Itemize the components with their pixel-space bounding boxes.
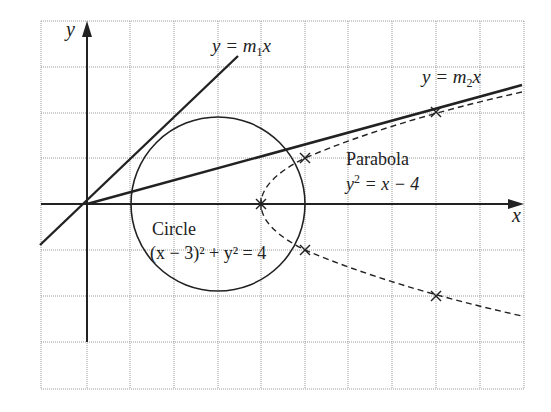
y-axis-arrow-icon	[82, 21, 92, 37]
diagram-canvas: y x y = m1x y = m2x Parabola y2 = x − 4 …	[0, 0, 551, 412]
line-m1-label: y = m1x	[210, 35, 271, 59]
line-m2-label: y = m2x	[420, 66, 481, 90]
parabola-name-label: Parabola	[346, 149, 409, 169]
y-axis-label: y	[64, 18, 75, 41]
circle-name-label: Circle	[152, 219, 196, 239]
circle-equation-label: (x − 3)² + y² = 4	[150, 243, 266, 264]
line-m1	[40, 56, 238, 245]
x-axis-label: x	[511, 204, 521, 226]
parabola-equation-label: y2 = x − 4	[344, 172, 419, 194]
line-m2	[87, 85, 522, 204]
